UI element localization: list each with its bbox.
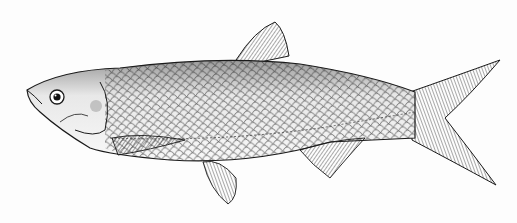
fish-illustration (0, 0, 517, 223)
dorsal-fin (236, 22, 289, 64)
illustration-canvas (0, 0, 517, 223)
tail-fin (410, 60, 500, 185)
pelvic-fin (203, 161, 236, 204)
